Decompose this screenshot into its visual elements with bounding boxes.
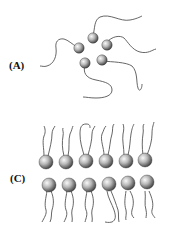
bilayer-c-tails-bottom — [42, 191, 155, 222]
bilayer-c-heads-bottom — [42, 175, 154, 192]
diagram-canvas — [0, 0, 181, 230]
micelle-a-heads — [74, 33, 112, 68]
bilayer-c-heads-top — [39, 153, 152, 169]
bilayer-c-tails-top — [43, 122, 154, 156]
